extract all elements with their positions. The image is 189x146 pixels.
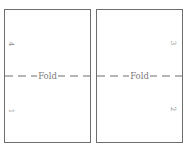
page-number-top: 3 — [169, 39, 177, 47]
left-sheet: Fold 4 1 — [4, 9, 91, 143]
page-number-bottom: 1 — [7, 107, 15, 115]
page-number-top: 4 — [7, 40, 15, 48]
page-number-bottom: 2 — [169, 105, 177, 113]
fold-line-right: Fold — [97, 71, 182, 81]
fold-label: Fold — [37, 71, 58, 81]
right-sheet: Fold 3 2 — [96, 9, 183, 143]
fold-label: Fold — [129, 71, 150, 81]
fold-line-left: Fold — [5, 71, 90, 81]
